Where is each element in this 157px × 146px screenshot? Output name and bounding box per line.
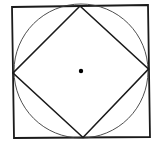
geometry-diagram bbox=[0, 0, 157, 146]
diagram-canvas bbox=[0, 0, 157, 146]
center-point bbox=[79, 69, 83, 73]
